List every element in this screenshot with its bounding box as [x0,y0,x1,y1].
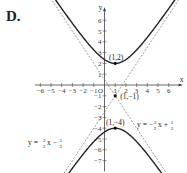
y-tick-label: 2 [98,60,102,68]
y-axis-arrow-icon [103,7,106,11]
x-tick-label: 4 [146,87,150,95]
x-tick-label: −6 [37,87,45,95]
point-label-vertex-top: (1,2) [109,53,124,62]
point-marker [114,94,117,97]
x-tick-label: −2 [79,87,87,95]
frac-num: 5 [60,138,63,143]
asymptote-label-right-mid: x + [158,120,168,129]
y-tick-label: 6 [98,17,102,25]
frac-num: 3 [43,138,46,143]
frac-den: 2 [43,144,46,149]
lower-branch [35,128,185,173]
asymptote-label-left-mid: x − [47,138,57,147]
y-tick-label: −7 [94,157,102,165]
frac-den: 2 [171,126,174,131]
x-axis-label: x [180,75,184,84]
frac-den: 2 [154,126,157,131]
y-tick-label: 5 [98,28,102,36]
x-tick-label: 6 [167,87,171,95]
asymptote-label-right: y = − [137,120,153,129]
frac-num: 3 [154,120,157,125]
y-tick-label: 4 [98,38,102,46]
x-tick-label: −3 [69,87,77,95]
frac-den: 2 [60,144,63,149]
frac-num: 1 [171,120,174,125]
point-label-center: (1,−1) [120,92,139,101]
x-tick-label: −5 [47,87,55,95]
x-tick-label: −4 [58,87,66,95]
y-tick-label: −6 [94,146,102,154]
y-axis-label: y [99,3,103,12]
hyperbola-plot: xy−6−5−4−3−2−1123456−7−6−5−4−3−2−1123456… [0,0,187,173]
y-tick-label: −2 [94,103,102,111]
point-label-vertex-bottom: (1,−4) [106,118,125,127]
asymptote-label-left: y = [28,138,38,147]
x-tick-label: 5 [156,87,160,95]
origin-label: O [98,87,103,95]
